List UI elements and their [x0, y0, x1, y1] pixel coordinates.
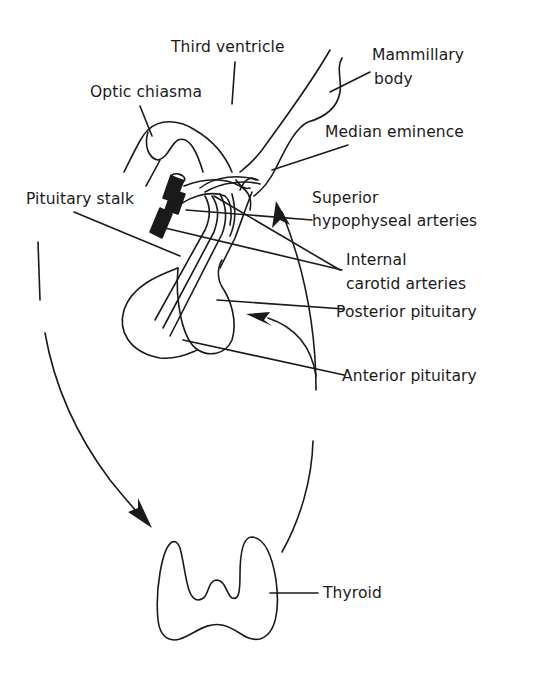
label-internal-carotid-line1: Internal	[346, 249, 407, 271]
label-anterior-pituitary: Anterior pituitary	[342, 365, 477, 387]
label-third-ventricle: Third ventricle	[171, 36, 285, 58]
label-pituitary-stalk: Pituitary stalk	[26, 188, 134, 210]
posterior-pituitary-leader	[217, 300, 344, 309]
median-eminence-leader	[272, 145, 348, 170]
optic-chiasma-outline	[124, 122, 232, 172]
anterior-pituitary-leader	[183, 340, 344, 375]
label-posterior-pituitary: Posterior pituitary	[336, 301, 477, 323]
anterior-pituitary-outline	[122, 268, 198, 358]
label-optic-chiasma: Optic chiasma	[90, 81, 202, 103]
label-mammillary-body-line2: body	[374, 68, 413, 90]
internal-carotid-artery-upper	[163, 172, 186, 214]
third-ventricle-leader	[232, 62, 235, 104]
label-internal-carotid-line2: carotid arteries	[346, 273, 466, 295]
mammillary-body-leader	[330, 72, 370, 92]
hypothalamus-wall-outer	[240, 50, 330, 172]
superior-hypophyseal-leader	[186, 210, 312, 220]
diagram-canvas: Third ventricle Mammillary body Optic ch…	[0, 0, 533, 679]
optic-chiasma-inner	[146, 132, 203, 172]
internal-carotid-leader	[165, 228, 342, 270]
label-thyroid: Thyroid	[323, 582, 382, 604]
tsh-arrowhead	[128, 498, 152, 528]
label-superior-hypophyseal-line1: Superior	[312, 187, 378, 209]
tsh-arc-segment-top	[38, 242, 40, 300]
thyroid-hormone-arc	[282, 441, 313, 552]
internal-carotid-artery-lower	[150, 208, 172, 238]
label-median-eminence: Median eminence	[325, 121, 464, 143]
posterior-pituitary-outline	[177, 260, 234, 354]
optic-nerve-lower	[146, 160, 160, 186]
thyroid-gland-outline	[157, 537, 277, 640]
stalk-outer-right	[220, 192, 252, 268]
label-mammillary-body-line1: Mammillary	[372, 44, 464, 66]
diagram-drawing	[0, 0, 533, 679]
label-superior-hypophyseal-line2: hypophyseal arteries	[312, 210, 477, 232]
tsh-arc-to-thyroid	[45, 333, 146, 522]
feedback-arrowhead-pituitary	[246, 312, 272, 326]
